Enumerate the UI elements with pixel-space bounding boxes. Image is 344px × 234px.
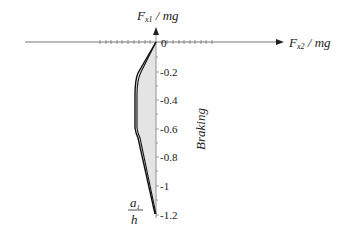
y-tick-label: -0.4 bbox=[160, 94, 178, 106]
y-axis-arrow-icon bbox=[153, 27, 159, 35]
braking-label: Braking bbox=[193, 108, 208, 150]
svg-text:a1: a1 bbox=[130, 195, 140, 211]
a1-over-h-annotation: a1 h bbox=[128, 195, 143, 227]
y-tick-label: 0 bbox=[161, 37, 167, 49]
y-tick-label: -0.2 bbox=[160, 66, 177, 78]
y-tick-label: -1 bbox=[160, 180, 169, 192]
y-axis-title: Fx1 / mg bbox=[136, 8, 179, 24]
y-tick-label: -0.8 bbox=[160, 151, 178, 163]
svg-text:h: h bbox=[131, 212, 138, 227]
x-axis-arrow-icon bbox=[276, 39, 284, 45]
y-tick-label: -0.6 bbox=[160, 123, 178, 135]
friction-ellipse-chart: 0 -0.2 -0.4 -0.6 -0.8 -1 -1.2 Fx1 / mg F… bbox=[0, 0, 344, 234]
braking-shaded-region bbox=[136, 42, 156, 214]
x-axis-title: Fx2 / mg bbox=[288, 35, 331, 51]
y-tick-label: -1.2 bbox=[160, 209, 177, 221]
